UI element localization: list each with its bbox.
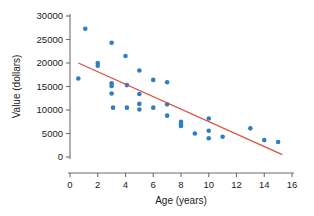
data-point bbox=[123, 54, 128, 59]
data-point bbox=[76, 76, 81, 81]
x-tick-label: 0 bbox=[67, 179, 72, 190]
data-point bbox=[109, 84, 114, 89]
y-tick-label: 30000 bbox=[37, 10, 63, 21]
x-axis: 0246810121416 bbox=[67, 173, 297, 190]
data-point bbox=[206, 128, 211, 133]
data-point bbox=[206, 116, 211, 121]
data-point bbox=[220, 134, 225, 139]
y-tick-label: 25000 bbox=[37, 34, 63, 45]
x-tick-label: 14 bbox=[259, 179, 270, 190]
data-point bbox=[137, 102, 142, 107]
data-point bbox=[109, 91, 114, 96]
x-axis-title: Age (years) bbox=[155, 195, 207, 206]
x-tick-label: 12 bbox=[231, 179, 242, 190]
y-tick-label: 10000 bbox=[37, 104, 63, 115]
y-axis: 050001000015000200002500030000 bbox=[37, 10, 70, 162]
x-tick-label: 10 bbox=[203, 179, 214, 190]
plot-canvas: 050001000015000200002500030000 024681012… bbox=[0, 0, 314, 216]
y-tick-label: 15000 bbox=[37, 81, 63, 92]
regression-line-layer bbox=[78, 63, 282, 155]
data-point bbox=[137, 107, 142, 112]
data-point bbox=[95, 64, 100, 69]
data-point bbox=[125, 105, 130, 110]
x-tick-label: 2 bbox=[95, 179, 100, 190]
data-point bbox=[193, 131, 198, 136]
x-tick-label: 8 bbox=[178, 179, 183, 190]
data-point bbox=[137, 92, 142, 97]
y-tick-label: 5000 bbox=[42, 128, 63, 139]
y-tick-label: 0 bbox=[58, 151, 63, 162]
regression-line bbox=[78, 63, 282, 155]
data-point bbox=[137, 68, 142, 73]
scatter-plot-figure: 050001000015000200002500030000 024681012… bbox=[0, 0, 314, 216]
data-points-layer bbox=[76, 26, 280, 144]
data-point bbox=[179, 124, 184, 129]
x-tick-label: 6 bbox=[151, 179, 156, 190]
data-point bbox=[262, 138, 267, 143]
y-tick-label: 20000 bbox=[37, 57, 63, 68]
data-point bbox=[206, 136, 211, 141]
x-tick-label: 4 bbox=[123, 179, 128, 190]
data-point bbox=[165, 113, 170, 118]
data-point bbox=[165, 80, 170, 85]
data-point bbox=[111, 105, 116, 110]
data-point bbox=[151, 105, 156, 110]
data-point bbox=[83, 26, 88, 31]
data-point bbox=[151, 78, 156, 83]
data-point bbox=[276, 140, 281, 145]
x-tick-label: 16 bbox=[287, 179, 298, 190]
data-point bbox=[109, 40, 114, 45]
y-axis-title: Value (dollars) bbox=[11, 55, 22, 119]
data-point bbox=[248, 126, 253, 131]
